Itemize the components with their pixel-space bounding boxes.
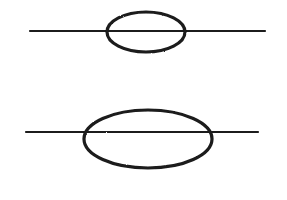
figure-bottom <box>26 110 258 168</box>
ellipse-bottom <box>84 110 212 168</box>
sketch-canvas <box>0 0 287 200</box>
figure-top <box>30 12 265 52</box>
